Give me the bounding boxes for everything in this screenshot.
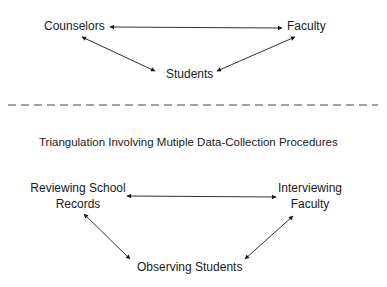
node-interviewing-line1: Interviewing <box>275 181 345 195</box>
arrow-interviewing-observing <box>245 216 293 259</box>
arrow-counselors-students <box>82 37 155 71</box>
arrow-records-interviewing <box>127 196 276 197</box>
arrow-records-observing <box>84 214 130 259</box>
caption-fragment-ink <box>0 281 387 287</box>
node-observing-students: Observing Students <box>137 260 242 274</box>
arrow-faculty-students <box>217 37 295 71</box>
node-records-line2: Records <box>28 197 128 211</box>
cropped-caption-fragment <box>0 281 387 287</box>
node-faculty: Faculty <box>287 19 326 33</box>
node-reviewing-school-records: Reviewing School Records <box>28 181 128 211</box>
node-interviewing-line2: Faculty <box>275 197 345 211</box>
arrow-counselors-faculty <box>110 27 282 28</box>
node-records-line1: Reviewing School <box>28 181 128 195</box>
section-title: Triangulation Involving Mutiple Data-Col… <box>39 135 338 149</box>
node-students: Students <box>166 67 213 81</box>
node-interviewing-faculty: Interviewing Faculty <box>275 181 345 211</box>
node-counselors: Counselors <box>44 19 105 33</box>
